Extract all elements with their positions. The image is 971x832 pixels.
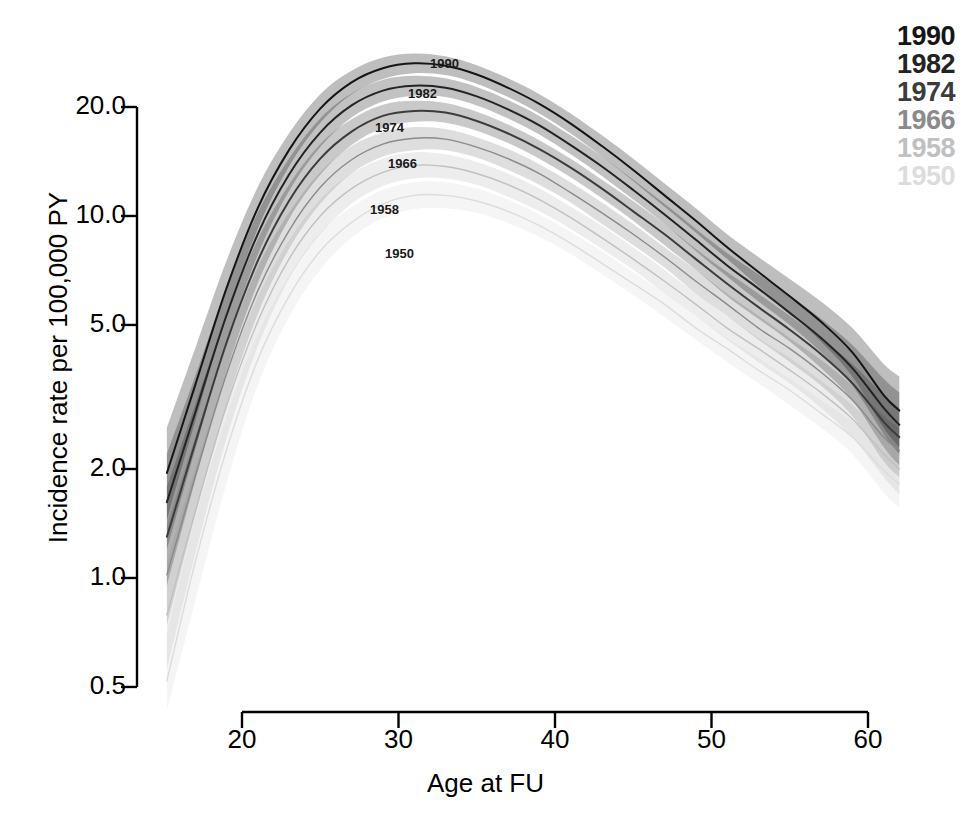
x-tick-label-40: 40 — [520, 724, 590, 755]
legend-entry-1982: 1982 — [897, 50, 955, 78]
figure-root: 20.010.05.02.01.00.5 Incidence rate per … — [0, 0, 971, 832]
legend-entry-1974: 1974 — [897, 78, 955, 106]
x-tick-label-20: 20 — [207, 724, 277, 755]
chart-canvas — [0, 0, 971, 832]
y-axis-title: Incidence rate per 100,000 PY — [43, 158, 74, 578]
legend-entry-1950: 1950 — [897, 162, 955, 190]
x-tick-label-30: 30 — [364, 724, 434, 755]
legend-entry-1966: 1966 — [897, 106, 955, 134]
curve-label-1982: 1982 — [408, 86, 437, 101]
y-tick-label-0.5: 0.5 — [16, 670, 126, 701]
curve-label-1966: 1966 — [388, 156, 417, 171]
x-tick-label-60: 60 — [833, 724, 903, 755]
curve-label-1990: 1990 — [430, 56, 459, 71]
legend: 199019821974196619581950 — [897, 22, 955, 190]
curve-label-1958: 1958 — [370, 202, 399, 217]
curve-label-1974: 1974 — [375, 120, 404, 135]
legend-entry-1958: 1958 — [897, 134, 955, 162]
x-axis-title: Age at FU — [0, 768, 971, 799]
curve-label-1950: 1950 — [385, 246, 414, 261]
y-tick-label-20: 20.0 — [16, 90, 126, 121]
x-tick-label-50: 50 — [677, 724, 747, 755]
legend-entry-1990: 1990 — [897, 22, 955, 50]
